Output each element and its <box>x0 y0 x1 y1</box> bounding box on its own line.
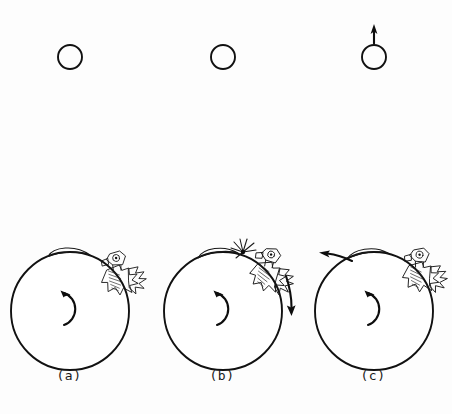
ejected-fragment-a <box>58 45 82 69</box>
panel-label-b: (b) <box>210 368 235 383</box>
main-body-circle-c <box>315 252 433 370</box>
main-body-circle-b <box>164 252 282 370</box>
downward-motion-arrow-b <box>286 276 296 316</box>
ejected-fragment-row <box>58 24 386 69</box>
surface-recoil-arrow-c <box>319 251 352 262</box>
panel-a-graphic <box>11 248 150 370</box>
panel-c-graphic <box>315 244 452 370</box>
diagram-svg <box>0 0 452 414</box>
panel-label-c: (c) <box>361 368 386 383</box>
main-body-circle-a <box>11 252 129 370</box>
figure-canvas: (a) (b) (c) <box>0 0 452 414</box>
upward-ejection-arrow <box>371 24 378 44</box>
ejected-fragment-b <box>211 45 235 69</box>
panel-b-graphic <box>164 239 304 370</box>
panel-label-a: (a) <box>57 368 82 383</box>
ejected-fragment-c <box>362 45 386 69</box>
